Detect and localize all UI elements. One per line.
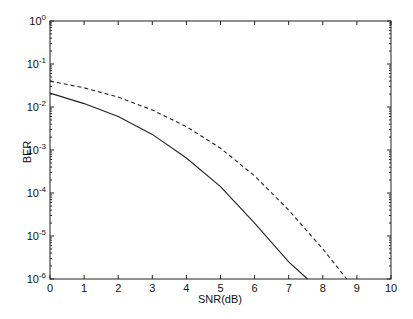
y-tick-label: 10-5 bbox=[27, 228, 47, 242]
x-tick-label: 7 bbox=[286, 282, 292, 294]
x-tick-label: 1 bbox=[81, 282, 87, 294]
x-tick-label: 4 bbox=[183, 282, 189, 294]
y-tick-label: 10-1 bbox=[27, 56, 47, 70]
axes-box bbox=[50, 21, 391, 279]
x-tick-label: 6 bbox=[252, 282, 258, 294]
y-axis-label: BER bbox=[21, 141, 33, 164]
x-axis-label: SNR(dB) bbox=[198, 293, 242, 305]
plot-area: 01234567891010010-110-210-310-410-510-6 bbox=[27, 13, 398, 294]
x-tick-label: 9 bbox=[354, 282, 360, 294]
ber-chart: 01234567891010010-110-210-310-410-510-6 … bbox=[0, 0, 413, 319]
y-tick-label: 100 bbox=[29, 13, 46, 27]
y-tick-label: 10-2 bbox=[27, 99, 47, 113]
y-tick-label: 10-4 bbox=[27, 185, 47, 199]
series-solid-line bbox=[50, 93, 308, 279]
series-dashed-line bbox=[50, 81, 347, 279]
x-tick-label: 0 bbox=[47, 282, 53, 294]
x-tick-label: 8 bbox=[320, 282, 326, 294]
x-tick-label: 3 bbox=[149, 282, 155, 294]
x-tick-label: 2 bbox=[115, 282, 121, 294]
y-tick-label: 10-6 bbox=[27, 271, 47, 285]
x-tick-label: 10 bbox=[385, 282, 397, 294]
